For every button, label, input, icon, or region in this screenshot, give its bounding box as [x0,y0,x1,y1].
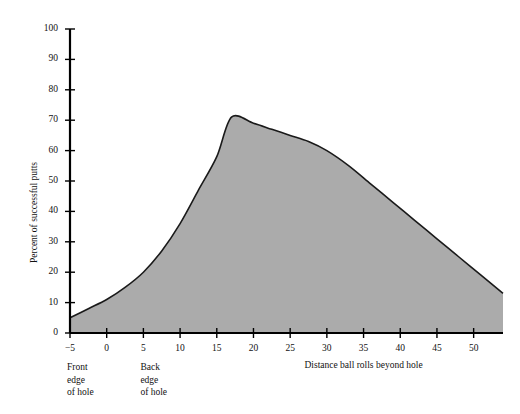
y-axis-tick-label: 10 [49,298,59,308]
y-axis-tick-label: 80 [49,85,59,95]
y-axis-tick-label: 60 [49,146,59,156]
x-axis-tick-label: 35 [359,344,369,354]
front-edge-of-hole: Front edge of hole [67,361,94,399]
y-axis-tick-label: 100 [44,24,58,34]
putting-success-area-chart: 0102030405060708090100 −5051015202530354… [0,0,520,414]
area-series-group [70,116,503,333]
y-axis-tick-label: 30 [49,237,59,247]
x-axis-tick-label: −5 [65,344,75,354]
x-axis-title: Distance ball rolls beyond hole [304,361,422,371]
x-axis-tick-label: 15 [212,344,222,354]
y-axis-title: Percent of successful putts [30,162,40,263]
x-axis-tick-label: 45 [432,344,442,354]
x-axis-tick-label: 30 [322,344,332,354]
y-axis-tick-label: 50 [49,176,59,186]
x-axis-tick-label: 50 [469,344,479,354]
x-axis-tick-label: 20 [249,344,259,354]
y-axis-tick-label: 20 [49,267,59,277]
x-axis-tick-label: 10 [175,344,185,354]
y-axis-tick-label: 0 [53,328,58,338]
x-axis-tick-label: 5 [141,344,146,354]
y-axis-tick-label: 90 [49,54,59,64]
y-axis-tick-label: 40 [49,206,59,216]
area-fill-path [70,116,503,333]
x-axis-tick-label: 25 [285,344,295,354]
x-axis-tick-label: 40 [396,344,406,354]
y-axis-tick-label: 70 [49,115,59,125]
x-axis-tick-label: 0 [104,344,109,354]
back-edge-of-hole: Back edge of hole [140,361,167,399]
